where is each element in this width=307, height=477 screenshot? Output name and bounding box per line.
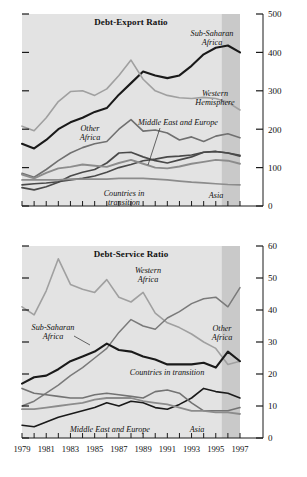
x-tick-label: 1985 bbox=[86, 444, 103, 454]
annotation-line-2: Africa bbox=[42, 332, 63, 341]
annotation-line-2: Africa bbox=[79, 133, 100, 142]
y-tick-label: 0 bbox=[268, 433, 273, 443]
x-tick-labels-group: 1979198119831985198719891991199319951997 bbox=[13, 444, 249, 454]
y-tick-labels-group: 0102030405060 bbox=[268, 241, 278, 443]
plot-background-group bbox=[22, 246, 240, 438]
annotation-line-1: Asia bbox=[208, 191, 224, 200]
annotation-line-1: Asia bbox=[189, 425, 205, 434]
annotation-asia: Asia bbox=[208, 191, 224, 200]
forecast-shaded-region bbox=[222, 14, 240, 206]
x-tick-label: 1979 bbox=[13, 444, 30, 454]
annotation-line-2: Hemisphere bbox=[194, 98, 235, 107]
figure-root: 0100200300400500 Debt-Export Ratio Sub-S… bbox=[0, 0, 307, 477]
y-tick-label: 40 bbox=[268, 305, 278, 315]
chart-panel-debt-service-ratio: 0102030405060 19791981198319851987198919… bbox=[0, 232, 307, 477]
annotation-line-1: Western bbox=[135, 266, 161, 275]
y-tick-label: 100 bbox=[268, 163, 282, 173]
chart-panel-debt-export-ratio: 0100200300400500 Debt-Export Ratio Sub-S… bbox=[0, 0, 307, 232]
annotation-line-1: Countries in bbox=[104, 189, 145, 198]
y-tick-label: 500 bbox=[268, 9, 282, 19]
plot-background bbox=[22, 246, 240, 438]
x-tick-label: 1995 bbox=[207, 444, 224, 454]
x-tick-label: 1983 bbox=[62, 444, 79, 454]
annotation-line-1: Sub-Saharan bbox=[32, 323, 75, 332]
chart-title: Debt-Export Ratio bbox=[94, 17, 168, 27]
x-tick-label: 1981 bbox=[38, 444, 55, 454]
chart-title: Debt-Service Ratio bbox=[94, 249, 169, 259]
annotation-line-2: Africa bbox=[201, 38, 222, 47]
y-tick-label: 60 bbox=[268, 241, 278, 251]
y-tick-label: 300 bbox=[268, 86, 282, 96]
x-tick-label: 1991 bbox=[159, 444, 176, 454]
annotation-line-2: Africa bbox=[137, 275, 158, 284]
debt-service-ratio-svg: 0102030405060 19791981198319851987198919… bbox=[0, 232, 307, 477]
x-tick-label: 1987 bbox=[110, 444, 128, 454]
annotation-asia: Asia bbox=[189, 425, 205, 434]
debt-export-ratio-svg: 0100200300400500 Debt-Export Ratio Sub-S… bbox=[0, 0, 307, 232]
annotation-western-hemisphere: Western Africa bbox=[135, 266, 161, 284]
y-tick-label: 30 bbox=[268, 337, 278, 347]
annotation-line-1: Other bbox=[212, 324, 232, 333]
x-tick-label: 1989 bbox=[135, 444, 152, 454]
y-tick-label: 50 bbox=[268, 273, 278, 283]
annotation-line-2: Africa bbox=[211, 333, 232, 342]
annotation-countries-in-transition: Countries in transition bbox=[130, 368, 205, 377]
annotation-line-1: Sub-Saharan bbox=[191, 29, 234, 38]
annotation-line-1: Other bbox=[80, 124, 100, 133]
y-tick-label: 200 bbox=[268, 125, 282, 135]
y-tick-label: 400 bbox=[268, 48, 282, 58]
annotation-other-africa: Other Africa bbox=[211, 324, 233, 342]
annotation-countries-in-transition: Countries in transition bbox=[104, 189, 145, 207]
x-tick-label: 1997 bbox=[231, 444, 249, 454]
y-tick-label: 0 bbox=[268, 201, 273, 211]
annotation-middle-east-and-europe: Middle East and Europe bbox=[69, 425, 150, 434]
y-tick-label: 10 bbox=[268, 401, 278, 411]
annotation-line-1: Middle East and Europe bbox=[69, 425, 150, 434]
x-tick-label: 1993 bbox=[183, 444, 200, 454]
annotation-line-1: Middle East and Europe bbox=[137, 118, 218, 127]
y-tick-label: 20 bbox=[268, 369, 278, 379]
y-tick-labels-group: 0100200300400500 bbox=[268, 9, 282, 211]
annotation-line-1: Countries in transition bbox=[130, 368, 205, 377]
annotation-line-2: transition bbox=[108, 198, 140, 207]
annotation-other-africa: Other Africa bbox=[79, 124, 101, 142]
annotation-line-1: Western bbox=[202, 89, 228, 98]
